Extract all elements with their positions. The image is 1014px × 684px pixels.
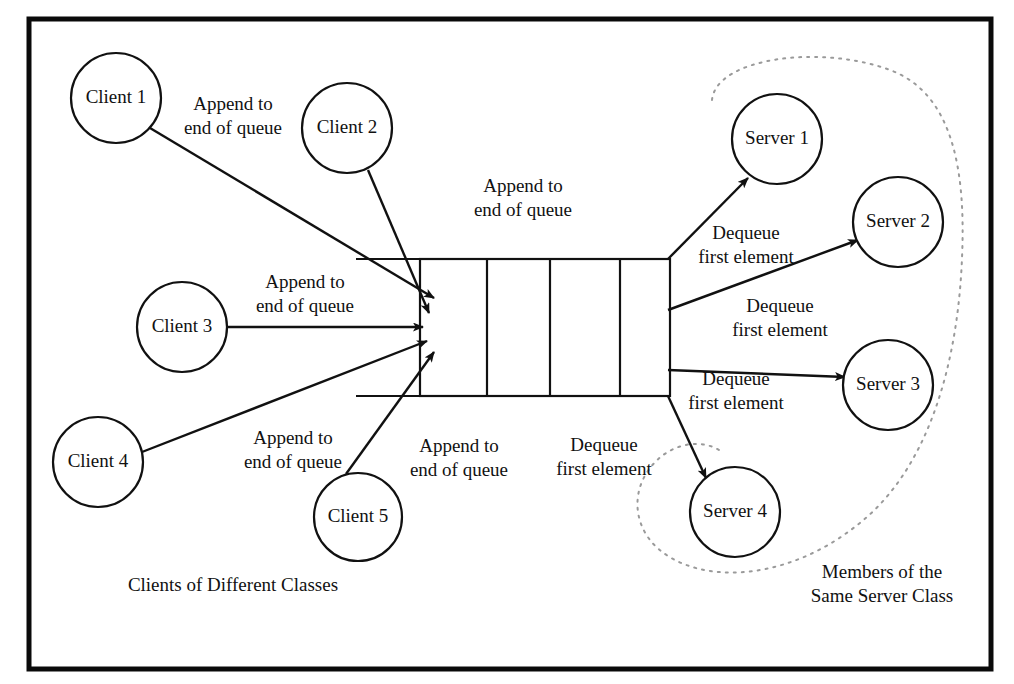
client-label: Client 5	[328, 505, 389, 526]
append-label-line2: end of queue	[244, 451, 342, 472]
client-node-5[interactable]: Client 5	[314, 473, 402, 561]
client-label: Client 1	[86, 86, 147, 107]
queue-box	[420, 259, 670, 396]
server-label: Server 4	[703, 500, 767, 521]
append-label-line1: Append to	[193, 93, 273, 114]
client-node-3[interactable]: Client 3	[137, 282, 227, 372]
dequeue-label-line2: first element	[732, 319, 828, 340]
dequeue-label-line1: Dequeue	[712, 222, 780, 243]
append-label-line2: end of queue	[184, 117, 282, 138]
dequeue-label-line1: Dequeue	[702, 368, 770, 389]
servers-group-label-line1: Members of the	[822, 561, 942, 582]
clients-group-label: Clients of Different Classes	[128, 574, 338, 595]
append-label-4: Append to end of queue	[244, 427, 342, 472]
append-label-3: Append to end of queue	[256, 271, 354, 316]
server-label: Server 2	[866, 210, 930, 231]
server-label: Server 3	[856, 373, 920, 394]
client-node-1[interactable]: Client 1	[71, 53, 161, 143]
dequeue-label-line2: first element	[698, 246, 794, 267]
server-node-4[interactable]: Server 4	[690, 467, 780, 557]
client-label: Client 2	[317, 116, 378, 137]
dequeue-label-line1: Dequeue	[570, 434, 638, 455]
server-node-3[interactable]: Server 3	[843, 340, 933, 430]
dequeue-label-line1: Dequeue	[746, 295, 814, 316]
client-node-4[interactable]: Client 4	[53, 417, 143, 507]
append-label-line2: end of queue	[410, 459, 508, 480]
append-label-line1: Append to	[419, 435, 499, 456]
append-label-line1: Append to	[253, 427, 333, 448]
diagram-svg: Client 1 Client 2 Client 3 Client 4 Clie…	[0, 0, 1014, 684]
server-node-1[interactable]: Server 1	[732, 94, 822, 184]
append-label-line1: Append to	[483, 175, 563, 196]
append-label-2: Append to end of queue	[474, 175, 572, 220]
dequeue-label-line2: first element	[688, 392, 784, 413]
append-label-line1: Append to	[265, 271, 345, 292]
client-node-2[interactable]: Client 2	[302, 83, 392, 173]
append-label-line2: end of queue	[256, 295, 354, 316]
dequeue-label-2: Dequeue first element	[732, 295, 828, 340]
client-label: Client 4	[68, 450, 129, 471]
dequeue-label-4: Dequeue first element	[556, 434, 652, 479]
server-node-2[interactable]: Server 2	[853, 177, 943, 267]
server-label: Server 1	[745, 127, 809, 148]
append-label-line2: end of queue	[474, 199, 572, 220]
diagram-canvas: Client 1 Client 2 Client 3 Client 4 Clie…	[0, 0, 1014, 684]
client-label: Client 3	[152, 315, 213, 336]
append-edge-client-2	[368, 170, 429, 313]
dequeue-label-1: Dequeue first element	[698, 222, 794, 267]
servers-group-label-line2: Same Server Class	[811, 585, 953, 606]
append-label-5: Append to end of queue	[410, 435, 508, 480]
append-label-1: Append to end of queue	[184, 93, 282, 138]
dequeue-label-line2: first element	[556, 458, 652, 479]
